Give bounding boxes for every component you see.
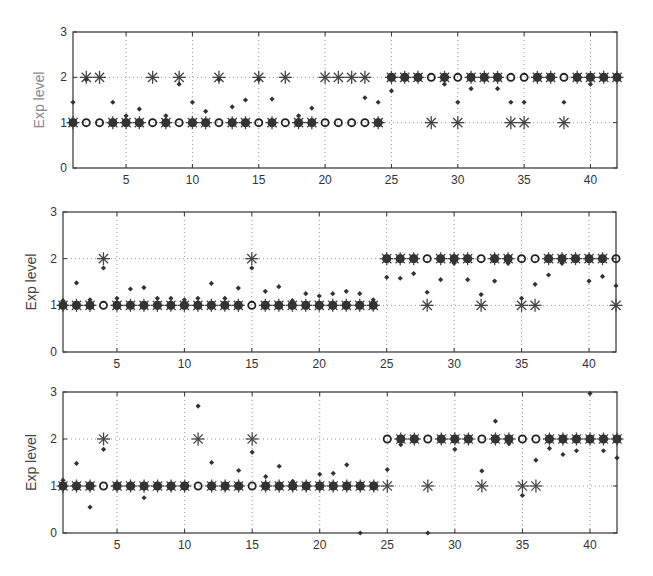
asterisk-marker (434, 252, 447, 265)
dot-marker (309, 106, 314, 111)
asterisk-marker (358, 71, 371, 84)
dot-marker (277, 464, 282, 469)
asterisk-marker (353, 299, 366, 312)
dot-marker (613, 283, 618, 288)
filled-marker (162, 118, 170, 126)
filled-marker (113, 482, 121, 490)
filled-marker (140, 301, 148, 309)
x-tick-label: 40 (584, 173, 598, 187)
filled-marker (329, 482, 337, 490)
y-axis-label: Exp level (31, 72, 47, 129)
asterisk-marker (557, 116, 570, 129)
dot-marker (493, 419, 498, 424)
circle-marker (361, 119, 368, 126)
dot-marker (479, 468, 484, 473)
asterisk-marker (106, 116, 119, 129)
filled-marker (261, 301, 269, 309)
asterisk-marker (151, 480, 164, 493)
asterisk-marker (583, 433, 596, 446)
dot-marker (533, 458, 538, 463)
x-tick-label: 20 (313, 538, 327, 552)
filled-marker (396, 254, 404, 262)
y-tick-label: 3 (50, 205, 57, 219)
asterisk-marker (465, 71, 478, 84)
asterisk-marker (326, 299, 339, 312)
asterisk-marker (186, 116, 199, 129)
asterisk-marker (319, 71, 332, 84)
filled-marker (480, 73, 488, 81)
filled-marker (329, 301, 337, 309)
dot-marker (296, 113, 301, 118)
dot-marker (492, 278, 497, 283)
asterisk-marker (97, 433, 110, 446)
asterisk-marker (569, 252, 582, 265)
x-tick-label: 30 (451, 173, 465, 187)
y-tick-label: 1 (50, 479, 57, 493)
asterisk-marker (67, 116, 80, 129)
filled-marker (387, 73, 395, 81)
asterisk-marker (259, 480, 272, 493)
asterisk-marker (70, 480, 83, 493)
asterisk-marker (232, 480, 245, 493)
dot-marker (330, 291, 335, 296)
dot-marker (479, 292, 484, 297)
filled-marker (571, 254, 579, 262)
dot-marker (398, 276, 403, 281)
dot-marker (586, 278, 591, 283)
asterisk-marker (138, 480, 151, 493)
filled-marker (122, 118, 130, 126)
asterisk-marker (597, 71, 610, 84)
asterisk-marker (407, 252, 420, 265)
asterisk-marker (556, 433, 569, 446)
asterisk-marker (398, 71, 411, 84)
filled-marker (356, 301, 364, 309)
filled-marker (275, 301, 283, 309)
x-tick-label: 10 (178, 538, 192, 552)
filled-marker (180, 482, 188, 490)
x-tick-label: 20 (318, 173, 332, 187)
filled-marker (599, 435, 607, 443)
dot-marker (357, 291, 362, 296)
x-tick-label: 15 (245, 357, 259, 371)
filled-marker (109, 118, 117, 126)
filled-marker (167, 301, 175, 309)
asterisk-marker (543, 433, 556, 446)
dot-marker (508, 100, 513, 105)
dot-marker (376, 100, 381, 105)
figure: 5101520253035400123Exp level510152025303… (0, 0, 653, 576)
x-tick-label: 40 (583, 538, 597, 552)
subplot-2: 5101520253035400123Exp level (23, 205, 623, 371)
dot-marker (520, 493, 525, 498)
y-tick-label: 1 (50, 298, 57, 312)
x-tick-label: 35 (515, 357, 529, 371)
asterisk-marker (146, 71, 159, 84)
dot-marker (389, 88, 394, 93)
dot-marker (442, 82, 447, 87)
filled-marker (308, 118, 316, 126)
filled-marker (586, 73, 594, 81)
dot-marker (250, 450, 255, 455)
asterisk-marker (421, 480, 434, 493)
x-tick-label: 5 (123, 173, 130, 187)
asterisk-marker (529, 299, 542, 312)
asterisk-marker (239, 116, 252, 129)
dot-marker (168, 296, 173, 301)
asterisk-marker (529, 480, 542, 493)
filled-marker (342, 301, 350, 309)
filled-marker (59, 482, 67, 490)
dot-marker (87, 505, 92, 510)
dot-marker (601, 448, 606, 453)
asterisk-marker (544, 71, 557, 84)
asterisk-marker (451, 116, 464, 129)
dot-marker (344, 289, 349, 294)
dot-marker (230, 104, 235, 109)
filled-marker (135, 118, 143, 126)
asterisk-marker (531, 71, 544, 84)
asterisk-marker (489, 433, 502, 446)
asterisk-marker (411, 71, 424, 84)
filled-marker (410, 435, 418, 443)
y-tick-label: 2 (50, 432, 57, 446)
dot-marker (452, 447, 457, 452)
filled-marker (414, 73, 422, 81)
dot-marker (155, 296, 160, 301)
